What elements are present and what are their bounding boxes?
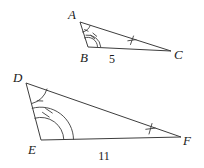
vertex-label-a: A (67, 7, 76, 22)
geometry-canvas: A B C 5 (0, 0, 204, 168)
side-bc-length-label: 5 (109, 52, 115, 66)
angle-e-arc-2 (32, 107, 73, 139)
geometry-figure: A B C 5 (0, 0, 204, 168)
angle-e-tick-1 (43, 112, 50, 117)
vertex-label-b: B (80, 50, 88, 65)
lower-triangle: D E F 11 (12, 70, 192, 163)
vertex-label-d: D (12, 70, 23, 85)
vertex-label-f: F (182, 133, 192, 148)
side-ac-tick-cross (128, 40, 136, 41)
angle-b-arc-2 (86, 35, 101, 47)
upper-triangle: A B C 5 (67, 7, 183, 66)
angle-e-arc-1 (35, 117, 64, 139)
angle-d-mark (32, 89, 47, 104)
angle-e-tick-2 (46, 108, 53, 113)
vertex-label-c: C (174, 47, 183, 62)
angle-a-arc-1 (83, 26, 91, 32)
angle-a-mark (83, 26, 91, 32)
angle-e-mark (32, 107, 73, 139)
triangle-def-outline (26, 83, 181, 140)
side-ef-length-label: 11 (98, 149, 110, 163)
vertex-label-e: E (27, 142, 36, 157)
side-df-tick-cross (146, 128, 155, 129)
